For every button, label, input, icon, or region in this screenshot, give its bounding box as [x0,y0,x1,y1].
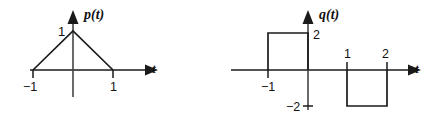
p-axis-t-label: t [152,61,156,76]
q-xtick-label-one: 1 [344,47,351,61]
q-positive-pulse-trace [268,33,308,70]
p-xtick-label-minus-one: −1 [23,80,37,94]
q-t-axis [231,65,421,76]
q-axis-function-label: q(t) [319,7,339,23]
q-ytick-label-two: 2 [313,28,320,42]
q-negative-pulse-trace [347,70,387,106]
p-t-axis [30,65,158,76]
chart-q-of-t: q(t) t 2 −2 −1 1 2 [223,0,446,122]
p-xtick-label-one: 1 [110,80,117,94]
q-xtick-label-minus-one: −1 [261,80,275,94]
p-axis-function-label: p(t) [83,7,104,23]
p-peak-value-label: 1 [58,24,65,39]
p-value-axis [68,10,79,97]
q-ytick-label-minus-two: −2 [286,100,300,114]
q-axis-t-label: t [415,61,419,76]
two-signal-waveform-figure: p(t) t 1 −1 1 [0,0,446,122]
q-xtick-label-two: 2 [382,47,389,61]
chart-p-of-t: p(t) t 1 −1 1 [0,0,223,122]
